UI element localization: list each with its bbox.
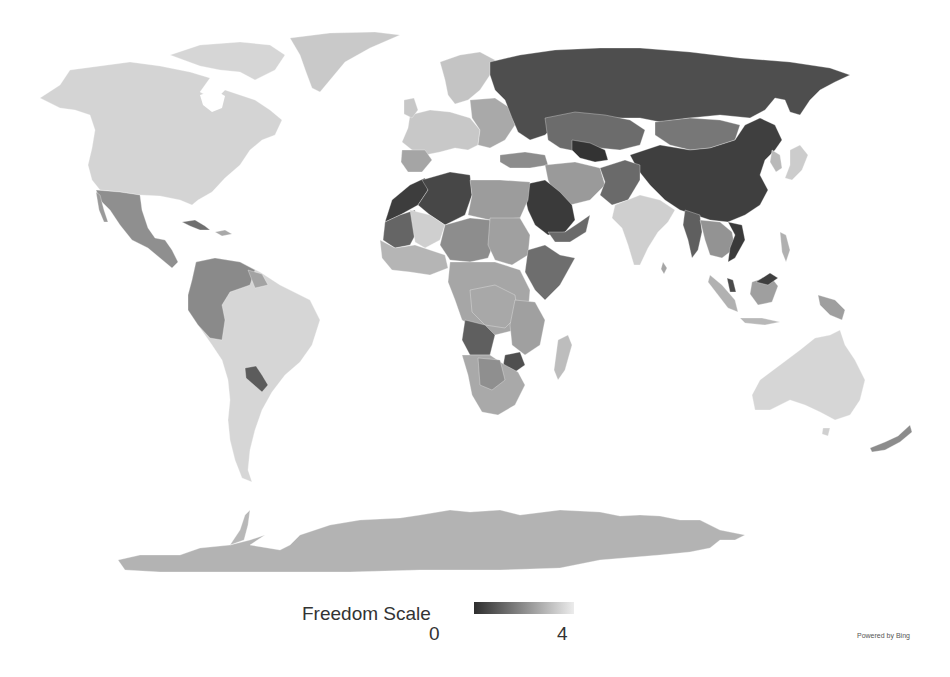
region-north-america[interactable] [40, 62, 282, 205]
region-malaysia[interactable] [727, 278, 736, 292]
region-antarctica[interactable] [118, 510, 745, 572]
region-myanmar[interactable] [683, 210, 702, 258]
region-new-zealand[interactable] [870, 425, 912, 452]
region-sri-lanka[interactable] [661, 262, 667, 274]
region-sumatra[interactable] [708, 275, 738, 312]
bing-attribution: Powered by Bing [857, 632, 910, 639]
region-libya-egypt[interactable] [468, 180, 530, 220]
region-australia[interactable] [752, 330, 865, 420]
region-tasmania[interactable] [822, 428, 830, 436]
region-japan[interactable] [785, 145, 808, 180]
region-caribbean[interactable] [215, 230, 232, 236]
region-madagascar[interactable] [554, 335, 572, 380]
legend-max-label: 4 [557, 623, 568, 645]
region-sudan[interactable] [488, 218, 530, 265]
region-turkey[interactable] [500, 152, 548, 168]
region-west-africa[interactable] [380, 240, 448, 275]
region-western-europe[interactable] [402, 110, 480, 155]
region-ethiopia-somalia[interactable] [525, 245, 575, 300]
region-greenland[interactable] [290, 32, 400, 92]
legend-color-bar [474, 600, 574, 612]
region-iberia[interactable] [401, 150, 432, 172]
legend-min-label: 0 [429, 623, 440, 645]
region-java[interactable] [740, 318, 780, 325]
region-niger-chad[interactable] [440, 218, 495, 262]
region-new-guinea[interactable] [818, 295, 845, 320]
world-map[interactable] [0, 0, 950, 590]
choropleth-map-svg [0, 0, 950, 590]
region-scandinavia[interactable] [440, 52, 495, 104]
region-cuba[interactable] [182, 220, 210, 230]
region-mexico[interactable] [96, 190, 178, 268]
legend-title: Freedom Scale [302, 603, 431, 625]
region-philippines[interactable] [780, 232, 790, 262]
map-legend: Freedom Scale 0 4 [302, 598, 582, 648]
region-india[interactable] [612, 195, 675, 265]
region-tanzania-east[interactable] [510, 300, 545, 355]
region-antarctic-peninsula[interactable] [230, 510, 250, 545]
region-korea[interactable] [770, 150, 782, 172]
